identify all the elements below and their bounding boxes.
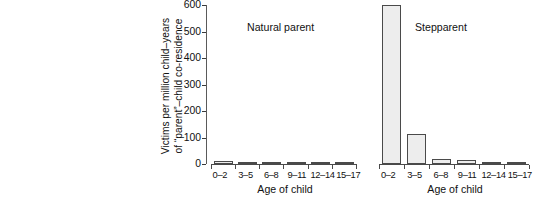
plot-area bbox=[379, 0, 529, 164]
x-tick-label: 0–2 bbox=[207, 169, 233, 181]
bar-slot bbox=[504, 0, 529, 164]
x-axis-labels: 0–23–56–89–1112–1415–17 bbox=[207, 169, 361, 181]
x-tick-label: 9–11 bbox=[454, 169, 480, 181]
x-tick-label: 0–2 bbox=[375, 169, 401, 181]
bar-chart: Victims per million child–years of “pare… bbox=[148, 0, 517, 201]
caption-line: o children of being bbox=[0, 4, 145, 18]
y-tick-label: 500 bbox=[184, 26, 201, 36]
bar-slot bbox=[235, 0, 259, 164]
figure-caption-text: o children of being rent versus a steppa… bbox=[0, 4, 145, 167]
caption-line: 988b). Copyright © 1988, bbox=[0, 140, 145, 154]
bar-slot bbox=[404, 0, 429, 164]
plot-area bbox=[211, 0, 357, 164]
y-tick-label: 200 bbox=[184, 106, 201, 116]
caption-line: gical parents. The data are bbox=[0, 113, 145, 127]
bar bbox=[382, 5, 402, 164]
x-tick-label: 12–14 bbox=[310, 169, 336, 181]
bar-slot bbox=[429, 0, 454, 164]
bar-group bbox=[379, 0, 529, 164]
x-tick-label: 15–17 bbox=[507, 169, 533, 181]
caption-line: ides per million child-years bbox=[0, 58, 145, 72]
bar-slot bbox=[379, 0, 404, 164]
caption-line: or younger are killed by bbox=[0, 86, 145, 100]
caption-line: d by permission of Aldine bbox=[0, 154, 145, 168]
y-axis-label: Victims per million child–years of “pare… bbox=[146, 0, 180, 172]
caption-line: pent living in the same bbox=[0, 72, 145, 86]
bar-slot bbox=[284, 0, 308, 164]
x-tick-label: 3–5 bbox=[401, 169, 427, 181]
x-axis-labels: 0–23–56–89–1112–1415–17 bbox=[375, 169, 533, 181]
bar-group bbox=[211, 0, 357, 164]
bar bbox=[407, 134, 427, 164]
y-tick-label: 600 bbox=[184, 0, 201, 10]
x-tick-label: 3–5 bbox=[233, 169, 259, 181]
caption-line: 974 through 1983. From bbox=[0, 126, 145, 140]
x-tick-label: 6–8 bbox=[428, 169, 454, 181]
x-axis-title: Age of child bbox=[375, 183, 535, 195]
caption-line: 70 times higher than such bbox=[0, 99, 145, 113]
x-tick-label: 6–8 bbox=[258, 169, 284, 181]
y-tick-mark bbox=[202, 164, 206, 165]
x-tick-label: 15–17 bbox=[335, 169, 361, 181]
bar-slot bbox=[454, 0, 479, 164]
caption-line: e at which parents killed bbox=[0, 45, 145, 59]
bar-slot bbox=[333, 0, 357, 164]
panel-natural-parent: Natural parent 0–23–56–89–1112–1415–17 A… bbox=[207, 0, 363, 201]
y-tick-label: 100 bbox=[184, 132, 201, 142]
y-tick-label: 300 bbox=[184, 79, 201, 89]
bar-slot bbox=[479, 0, 504, 164]
y-axis-ticks: 0100200300400500600 bbox=[176, 0, 206, 172]
x-tick-label: 9–11 bbox=[284, 169, 310, 181]
caption-line: gical parents (left) and bbox=[0, 31, 145, 45]
panel-stepparent: Stepparent 0–23–56–89–1112–1415–17 Age o… bbox=[375, 0, 535, 201]
x-axis-title: Age of child bbox=[207, 183, 363, 195]
caption-line: rent versus a stepparent bbox=[0, 18, 145, 32]
y-tick-label: 0 bbox=[195, 159, 201, 169]
x-tick-label: 12–14 bbox=[480, 169, 506, 181]
bar-slot bbox=[260, 0, 284, 164]
bar-slot bbox=[211, 0, 235, 164]
figure-caption: o children of being rent versus a steppa… bbox=[0, 0, 148, 201]
bar-slot bbox=[308, 0, 332, 164]
y-tick-label: 400 bbox=[184, 53, 201, 63]
